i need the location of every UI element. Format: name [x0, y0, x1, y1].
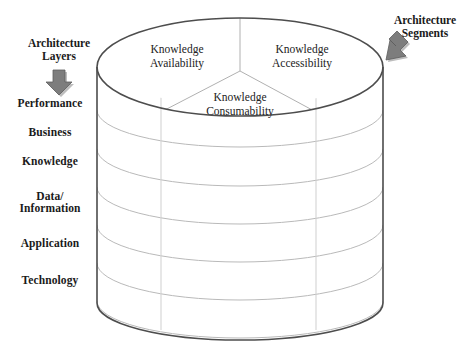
segment-consumability-line1: Knowledge	[206, 91, 274, 105]
callout-segments-line1: Architecture	[394, 14, 456, 27]
layer-label-data-information: Data/ Information	[19, 190, 80, 215]
layer-label-information: Information	[19, 202, 80, 214]
segment-label-knowledge-availability: Knowledge Availability	[150, 43, 204, 71]
segment-label-knowledge-accessibility: Knowledge Accessibility	[272, 43, 332, 71]
callout-architecture-segments: Architecture Segments	[394, 14, 456, 40]
segment-availability-line1: Knowledge	[150, 43, 204, 57]
layer-label-performance: Performance	[18, 97, 83, 109]
layer-label-application: Application	[21, 237, 80, 249]
callout-layers-line1: Architecture	[28, 37, 90, 50]
segment-accessibility-line1: Knowledge	[272, 43, 332, 57]
segment-consumability-line2: Consumability	[206, 105, 274, 119]
callout-segments-line2: Segments	[394, 27, 456, 40]
segment-accessibility-line2: Accessibility	[272, 57, 332, 71]
callout-layers-line2: Layers	[28, 50, 90, 63]
segment-availability-line2: Availability	[150, 57, 204, 71]
callout-architecture-layers: Architecture Layers	[28, 37, 90, 63]
layer-label-technology: Technology	[22, 274, 79, 286]
down-arrow-icon	[46, 70, 74, 97]
layer-label-knowledge: Knowledge	[22, 155, 78, 167]
layer-label-business: Business	[29, 126, 72, 138]
segment-label-knowledge-consumability: Knowledge Consumability	[206, 91, 274, 119]
layer-label-data: Data/	[19, 190, 80, 202]
architecture-cylinder-figure: Architecture Layers Architecture Segment…	[0, 0, 467, 348]
